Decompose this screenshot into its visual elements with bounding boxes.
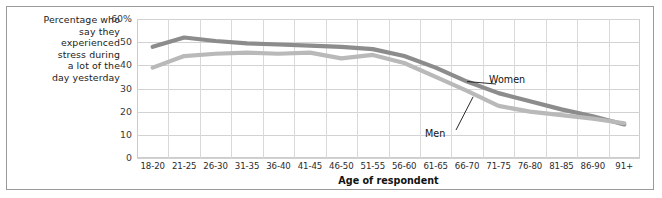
x-axis-tick-label: 91+ bbox=[607, 161, 641, 171]
y-axis-tick-label: 30 bbox=[106, 84, 132, 94]
y-axis-tick-label: 60% bbox=[106, 14, 132, 24]
y-axis-tick-label: 20 bbox=[106, 107, 132, 117]
x-axis-tick-label: 86-90 bbox=[576, 161, 610, 171]
x-axis-tick-label: 36-40 bbox=[261, 161, 295, 171]
y-axis-tick-labels: 60%50403020100 bbox=[104, 19, 132, 158]
x-axis-tick-label: 71-75 bbox=[482, 161, 516, 171]
x-axis-tick-label: 31-35 bbox=[230, 161, 264, 171]
line-series-men bbox=[153, 53, 625, 124]
x-axis-tick-label: 66-70 bbox=[450, 161, 484, 171]
x-axis-tick-label: 26-30 bbox=[199, 161, 233, 171]
x-axis-tick-label: 46-50 bbox=[324, 161, 358, 171]
plot-area bbox=[137, 19, 640, 158]
x-axis-tick-label: 41-45 bbox=[293, 161, 327, 171]
x-axis-tick-label: 21-25 bbox=[167, 161, 201, 171]
x-axis-tick-label: 61-65 bbox=[419, 161, 453, 171]
x-axis-tick-label: 18-20 bbox=[136, 161, 170, 171]
y-axis-tick-label: 10 bbox=[106, 130, 132, 140]
y-axis-tick-label: 40 bbox=[106, 60, 132, 70]
x-axis-tick-label: 81-85 bbox=[544, 161, 578, 171]
chart-figure: Percentage who say they experienced stre… bbox=[0, 0, 662, 198]
x-axis-tick-label: 76-80 bbox=[513, 161, 547, 171]
x-axis-tick-labels: 18-2021-2526-3031-3536-4041-4546-5051-55… bbox=[137, 161, 640, 175]
series-label-women: Women bbox=[489, 74, 525, 85]
line-series-women bbox=[153, 38, 625, 125]
y-axis-tick-label: 0 bbox=[106, 153, 132, 163]
x-axis-title: Age of respondent bbox=[137, 175, 640, 186]
y-axis-tick-label: 50 bbox=[106, 37, 132, 47]
series-lines bbox=[137, 19, 640, 158]
gridline-horizontal bbox=[137, 158, 640, 159]
x-axis-tick-label: 51-55 bbox=[356, 161, 390, 171]
x-axis-tick-label: 56-60 bbox=[387, 161, 421, 171]
series-label-men: Men bbox=[425, 128, 445, 139]
